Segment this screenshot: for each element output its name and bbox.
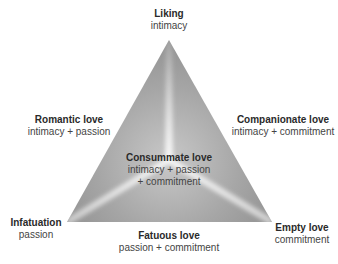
- label-companionate-love: Companionate love intimacy + commitment: [232, 114, 335, 138]
- love-triangle-diagram: Liking intimacy Romantic love intimacy +…: [0, 0, 338, 264]
- label-companionate-love-sub: intimacy + commitment: [232, 126, 335, 138]
- label-empty-love-title: Empty love: [275, 222, 329, 234]
- label-consummate-love-sub1: intimacy + passion: [126, 164, 212, 176]
- label-infatuation: Infatuation passion: [10, 217, 61, 241]
- label-liking-title: Liking: [151, 8, 188, 20]
- label-infatuation-title: Infatuation: [10, 217, 61, 229]
- label-liking: Liking intimacy: [151, 8, 188, 32]
- label-empty-love: Empty love commitment: [275, 222, 329, 246]
- label-infatuation-sub: passion: [10, 229, 61, 241]
- label-fatuous-love-title: Fatuous love: [119, 230, 219, 242]
- label-consummate-love: Consummate love intimacy + passion + com…: [126, 152, 212, 188]
- label-romantic-love-title: Romantic love: [28, 114, 111, 126]
- label-consummate-love-title: Consummate love: [126, 152, 212, 164]
- label-fatuous-love-sub: passion + commitment: [119, 242, 219, 254]
- label-fatuous-love: Fatuous love passion + commitment: [119, 230, 219, 254]
- label-liking-sub: intimacy: [151, 20, 188, 32]
- label-companionate-love-title: Companionate love: [232, 114, 335, 126]
- label-consummate-love-sub2: + commitment: [126, 176, 212, 188]
- label-romantic-love-sub: intimacy + passion: [28, 126, 111, 138]
- label-empty-love-sub: commitment: [275, 234, 329, 246]
- label-romantic-love: Romantic love intimacy + passion: [28, 114, 111, 138]
